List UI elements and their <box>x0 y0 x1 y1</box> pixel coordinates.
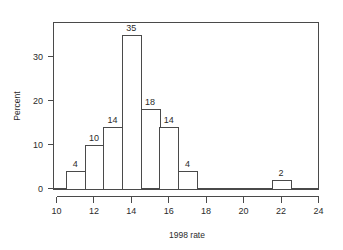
bar-value-label: 10 <box>89 133 99 143</box>
bar-value-label: 14 <box>108 115 118 125</box>
bar-value-label: 35 <box>126 23 136 33</box>
histogram-bar <box>179 172 198 190</box>
bar-value-label: 2 <box>278 168 283 178</box>
histogram-bar <box>273 181 292 190</box>
x-tick-label-22: 22 <box>276 206 286 216</box>
histogram-svg: 0 10 20 30 Percent 10 12 14 16 18 20 <box>0 0 343 250</box>
x-axis-tick-labels: 10 12 14 16 18 20 22 24 <box>51 206 323 216</box>
bar-value-label: 4 <box>185 159 190 169</box>
bar-value-label: 14 <box>164 115 174 125</box>
y-tick-label-30: 30 <box>33 52 43 62</box>
histogram-bar <box>160 128 179 190</box>
x-axis-title: 1998 rate <box>169 230 205 240</box>
x-tick-label-18: 18 <box>201 206 211 216</box>
x-axis-ticks <box>57 197 319 203</box>
bar-value-label: 18 <box>145 97 155 107</box>
x-tick-label-10: 10 <box>51 206 61 216</box>
x-tick-label-16: 16 <box>164 206 174 216</box>
bar-value-label: 4 <box>73 159 78 169</box>
histogram-bar <box>86 146 105 190</box>
x-tick-label-14: 14 <box>126 206 136 216</box>
y-tick-label-20: 20 <box>33 96 43 106</box>
y-tick-label-10: 10 <box>33 140 43 150</box>
y-axis-tick-labels: 0 10 20 30 <box>33 52 43 194</box>
x-tick-label-24: 24 <box>313 206 323 216</box>
histogram-bar <box>104 128 123 190</box>
x-tick-label-20: 20 <box>239 206 249 216</box>
y-axis-title: Percent <box>12 91 22 121</box>
histogram-bar <box>123 36 142 190</box>
y-axis-ticks <box>48 57 54 189</box>
histogram-bar <box>142 110 161 189</box>
histogram-figure: 0 10 20 30 Percent 10 12 14 16 18 20 <box>0 0 343 250</box>
histogram-bars <box>67 36 292 190</box>
x-tick-label-12: 12 <box>89 206 99 216</box>
histogram-bar <box>67 172 86 190</box>
y-tick-label-0: 0 <box>38 184 43 194</box>
